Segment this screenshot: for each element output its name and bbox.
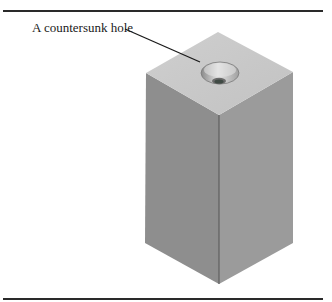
leader-line xyxy=(125,29,200,62)
block-drawing xyxy=(0,0,332,302)
figure: A countersunk hole xyxy=(0,0,332,302)
bottom-rule xyxy=(3,298,323,300)
countersunk-hole-label: A countersunk hole xyxy=(32,20,133,36)
countersunk-hole xyxy=(201,62,239,84)
